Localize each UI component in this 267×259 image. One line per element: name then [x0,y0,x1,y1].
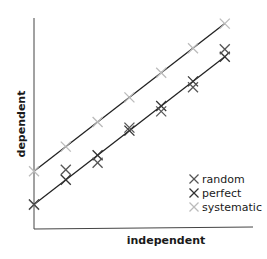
y-axis-label: dependent [15,91,28,158]
legend-marker-random [190,175,199,184]
systematic-point [156,68,166,78]
random-point [220,44,230,54]
random-point [93,158,103,168]
perfect-point [156,101,166,111]
random-point [156,106,166,116]
legend-label-random: random [202,173,245,186]
data-points [29,19,230,210]
chart: independent dependent randomperfectsyste… [0,0,267,259]
legend-label-perfect: perfect [202,187,242,200]
systematic-point [188,43,198,53]
legend-marker-perfect [190,189,199,198]
perfect-point [61,175,71,185]
random-point [188,82,198,92]
systematic-point [93,117,103,127]
legend: randomperfectsystematic [190,173,262,214]
legend-marker-systematic [190,203,199,212]
perfect-point [188,76,198,86]
legend-label-systematic: systematic [202,201,262,214]
systematic-point [61,142,71,152]
systematic-point [220,19,230,29]
systematic-point [124,92,134,102]
x-axis-label: independent [127,234,206,247]
x-axis [34,227,253,229]
random-point [61,165,71,175]
